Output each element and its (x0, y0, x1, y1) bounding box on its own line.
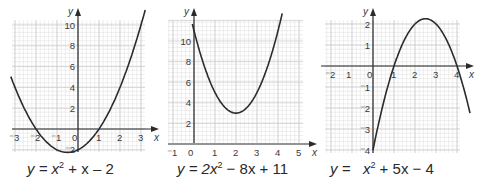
svg-text:8: 8 (186, 56, 191, 67)
svg-text:4: 4 (275, 147, 280, 158)
svg-text:1: 1 (346, 69, 351, 80)
svg-text:⁻1: ⁻1 (360, 82, 370, 93)
svg-text:x: x (153, 132, 160, 143)
svg-text:⁻3: ⁻3 (9, 132, 19, 143)
svg-text:0: 0 (72, 132, 77, 143)
svg-text:⁻2: ⁻2 (325, 69, 335, 80)
svg-text:1: 1 (365, 40, 370, 51)
svg-text:x: x (311, 147, 318, 158)
svg-text:2: 2 (117, 132, 122, 143)
svg-text:⁻4: ⁻4 (360, 145, 370, 156)
svg-text:4: 4 (186, 97, 191, 108)
svg-text:5: 5 (296, 147, 301, 158)
svg-text:1: 1 (96, 132, 101, 143)
graph-3: xy⁻210123421⁻1⁻2⁻3⁻4 (321, 6, 475, 156)
svg-text:2: 2 (233, 147, 238, 158)
svg-text:3: 3 (254, 147, 259, 158)
svg-text:2: 2 (186, 118, 191, 129)
svg-text:0: 0 (188, 147, 193, 158)
equation-1: y = x2 + x – 2 (27, 160, 114, 177)
curve (373, 19, 470, 150)
y-axis-arrow-icon (370, 8, 376, 16)
svg-text:8: 8 (70, 40, 75, 51)
svg-text:10: 10 (180, 36, 191, 47)
svg-text:y: y (67, 6, 74, 17)
svg-text:10: 10 (64, 20, 75, 31)
svg-text:2: 2 (365, 19, 370, 30)
svg-text:y: y (183, 6, 190, 17)
svg-text:3: 3 (433, 69, 438, 80)
graphs-canvas: xy⁻3⁻2⁻10123⁻2246810xy⁻1012345246810xy⁻2… (0, 0, 483, 187)
equation-2: y = 2x2 − 8x + 11 (177, 160, 288, 177)
svg-text:⁻3: ⁻3 (360, 124, 370, 135)
svg-text:3: 3 (138, 132, 143, 143)
svg-text:0: 0 (367, 69, 372, 80)
graph-1: xy⁻3⁻2⁻10123⁻2246810 (9, 6, 160, 155)
svg-text:⁻1: ⁻1 (167, 147, 177, 158)
svg-text:x: x (468, 69, 475, 80)
svg-text:⁻1: ⁻1 (51, 132, 61, 143)
y-axis-arrow-icon (191, 8, 197, 16)
equation-3: y = x2 + 5x − 4 (330, 160, 434, 177)
svg-text:⁻2: ⁻2 (65, 144, 75, 155)
y-axis-arrow-icon (75, 8, 81, 16)
svg-text:2: 2 (412, 69, 417, 80)
graph-2: xy⁻1012345246810 (167, 6, 318, 158)
svg-text:y: y (362, 6, 369, 17)
svg-text:2: 2 (70, 103, 75, 114)
svg-text:6: 6 (186, 77, 191, 88)
svg-text:6: 6 (70, 61, 75, 72)
svg-text:4: 4 (70, 82, 75, 93)
svg-text:⁻2: ⁻2 (360, 103, 370, 114)
curve (192, 13, 282, 113)
svg-text:1: 1 (212, 147, 217, 158)
